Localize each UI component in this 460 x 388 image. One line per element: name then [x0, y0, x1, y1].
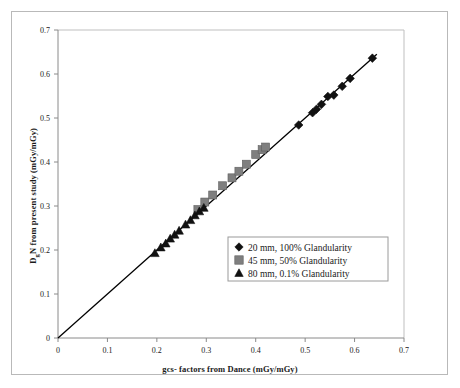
x-tick-label-1: 0.1: [102, 346, 112, 355]
x-tick-label-7: 0.7: [399, 346, 409, 355]
legend-label-0: 20 mm, 100% Glandularity: [248, 243, 352, 253]
data-point-square: [235, 167, 243, 175]
x-tick-label-0: 0: [56, 346, 60, 355]
x-tick-label-2: 0.2: [152, 346, 162, 355]
y-axis-title: DgN from present study (mGy/mGy): [28, 76, 40, 316]
x-axis-title: gcs- factors from Dance (mGy/mGy): [0, 364, 460, 374]
legend-label-2: 80 mm, 0.1% Glandularity: [248, 269, 350, 279]
data-point-square: [262, 143, 270, 151]
y-axis-title-subscript: g: [33, 254, 40, 257]
y-axis-title-pre: D: [28, 257, 38, 263]
data-point-square: [242, 160, 250, 168]
data-point-square: [209, 191, 217, 199]
figure-canvas: 00.10.20.30.40.50.60.700.10.20.30.40.50.…: [0, 0, 460, 388]
data-point-diamond: [294, 121, 303, 130]
legend-marker-square: [235, 256, 243, 264]
x-tick-label-3: 0.3: [201, 346, 211, 355]
y-tick-label-7: 0.7: [40, 26, 50, 35]
y-tick-label-0: 0: [46, 334, 50, 343]
legend-label-1: 45 mm, 50% Glandularity: [248, 256, 347, 266]
y-tick-label-2: 0.2: [40, 246, 50, 255]
y-tick-label-4: 0.4: [40, 158, 50, 167]
data-point-square: [219, 182, 227, 190]
y-tick-label-1: 0.1: [40, 290, 50, 299]
data-point-diamond: [338, 82, 347, 91]
y-tick-label-6: 0.6: [40, 70, 50, 79]
x-tick-label-6: 0.6: [350, 346, 360, 355]
y-tick-label-3: 0.3: [40, 202, 50, 211]
scatter-chart: 00.10.20.30.40.50.60.700.10.20.30.40.50.…: [0, 0, 460, 388]
x-tick-label-4: 0.4: [251, 346, 261, 355]
y-axis-title-post: N from present study (mGy/mGy): [28, 128, 38, 254]
y-tick-label-5: 0.5: [40, 114, 50, 123]
x-tick-label-5: 0.5: [300, 346, 310, 355]
